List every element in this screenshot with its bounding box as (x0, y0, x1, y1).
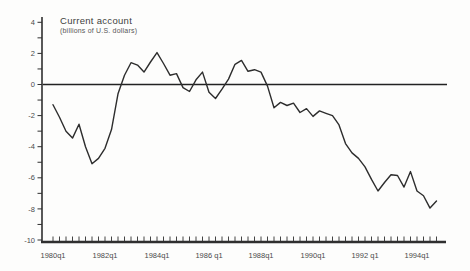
x-tick-label: 1984q1 (144, 251, 169, 260)
x-tick-label: 1980q1 (40, 251, 65, 260)
current-account-series-line (53, 53, 437, 209)
y-tick-label: -2 (28, 111, 35, 120)
current-account-chart: Current account (billions of U.S. dollar… (0, 0, 470, 271)
chart-plot-area: 420-2-4-6-8-101980q11982q11984q11986 q11… (0, 0, 470, 271)
y-tick-label: 2 (31, 49, 35, 58)
x-tick-label: 1990q1 (300, 251, 325, 260)
x-tick-label: 1988q1 (248, 251, 273, 260)
y-tick-label: -8 (28, 205, 35, 214)
x-tick-label: 1994q1 (404, 251, 429, 260)
y-tick-label: -4 (28, 142, 35, 151)
x-tick-label: 1982q1 (92, 251, 117, 260)
x-tick-label: 1986 q1 (195, 251, 222, 260)
y-tick-label: -6 (28, 173, 35, 182)
y-tick-label: -10 (24, 236, 35, 245)
y-tick-label: 0 (31, 80, 35, 89)
y-tick-label: 4 (31, 18, 35, 27)
x-tick-label: 1992 q1 (351, 251, 378, 260)
